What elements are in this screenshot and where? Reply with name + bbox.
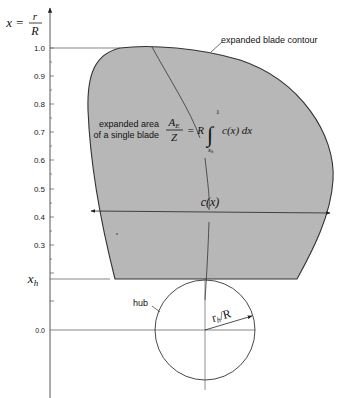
tick-label-0.6: 0.6	[34, 156, 46, 165]
hub-label: hub	[133, 298, 148, 308]
tick-label-0.8: 0.8	[34, 100, 46, 109]
expanded-blade-shape	[88, 47, 333, 280]
area-label-line2: of a single blade	[93, 130, 159, 140]
svg-text:1: 1	[216, 108, 220, 116]
tick-label-xh: xh	[27, 271, 39, 288]
tick-label-0.3: 0.3	[34, 241, 46, 250]
tick-label-0.0: 0.0	[35, 327, 45, 334]
tick-label-0.4: 0.4	[34, 213, 46, 222]
blade-area-diagram: 1.0 0.9 0.8 0.7 0.6 0.5 0.4 0.3 0.0 xh x…	[0, 0, 342, 398]
svg-text:r: r	[33, 10, 38, 22]
blade-dot	[116, 233, 118, 235]
y-axis-ticks	[50, 48, 54, 301]
axis-title: x = r R	[5, 10, 42, 38]
tick-label-0.7: 0.7	[34, 128, 46, 137]
svg-text:= R: = R	[187, 124, 204, 136]
hub-leader-line	[152, 306, 160, 312]
tick-label-0.9: 0.9	[34, 72, 46, 81]
svg-text:x =: x =	[5, 15, 24, 30]
tick-label-0.5: 0.5	[34, 185, 46, 194]
area-label-line1: expanded area	[99, 119, 159, 129]
tick-label-1.0: 1.0	[34, 44, 46, 53]
svg-text:R: R	[30, 24, 39, 38]
contour-label: expanded blade contour	[221, 35, 318, 45]
svg-text:c(x) dx: c(x) dx	[222, 124, 252, 137]
chord-label: c(x)	[201, 195, 220, 209]
svg-text:Z: Z	[171, 131, 178, 143]
